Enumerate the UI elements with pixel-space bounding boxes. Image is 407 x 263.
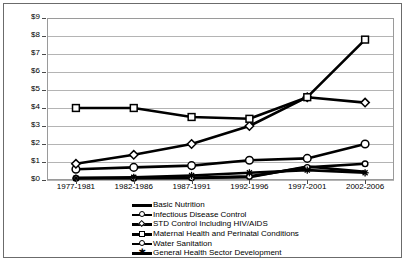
series-layer xyxy=(47,18,394,180)
legend-item: STD Control Including HIV/AIDS xyxy=(132,219,362,229)
series-marker xyxy=(130,105,137,112)
y-axis-tick-label: $7 xyxy=(6,49,40,57)
x-axis-tick-mark xyxy=(76,180,77,184)
series-marker xyxy=(188,114,195,121)
x-axis-tick-mark xyxy=(307,180,308,184)
series-marker xyxy=(187,140,195,148)
chart-legend: Basic NutritionInfectious Disease Contro… xyxy=(132,200,362,258)
series-marker xyxy=(361,140,369,148)
y-axis-tick-label: $6 xyxy=(6,67,40,75)
legend-swatch xyxy=(132,200,152,209)
legend-item: Maternal Health and Perinatal Conditions xyxy=(132,229,362,239)
series-marker xyxy=(245,122,253,130)
y-axis-tick-label: $1 xyxy=(6,157,40,165)
x-axis-tick-mark xyxy=(365,180,366,184)
legend-label: STD Control Including HIV/AIDS xyxy=(153,219,268,228)
series-marker xyxy=(362,36,369,43)
legend-label: Water Sanitation xyxy=(153,239,212,248)
legend-item: Infectious Disease Control xyxy=(132,210,362,220)
series-marker xyxy=(361,98,369,106)
legend-line xyxy=(132,204,152,207)
series-marker xyxy=(188,162,196,170)
series-marker xyxy=(361,169,368,176)
legend-marker xyxy=(139,240,145,246)
legend-marker xyxy=(139,211,145,217)
y-axis-tick-label: $2 xyxy=(6,139,40,147)
legend-swatch: ✱ xyxy=(132,248,152,257)
legend-item: Basic Nutrition xyxy=(132,200,362,210)
legend-marker xyxy=(139,231,145,237)
series-line xyxy=(76,40,365,119)
series-marker xyxy=(73,105,80,112)
y-axis-tick-mark xyxy=(42,72,46,73)
y-axis-tick-label: $8 xyxy=(6,31,40,39)
gridline xyxy=(47,180,394,181)
y-axis-tick-label: $3 xyxy=(6,121,40,129)
chart-screenshot: Basic NutritionInfectious Disease Contro… xyxy=(0,0,407,263)
legend-swatch xyxy=(132,219,152,228)
series-marker xyxy=(130,164,138,172)
y-axis-tick-mark xyxy=(42,54,46,55)
legend-item: ✱General Health Sector Development xyxy=(132,248,362,258)
y-axis-tick-mark xyxy=(42,18,46,19)
plot-area xyxy=(47,18,394,180)
y-axis-tick-mark xyxy=(42,144,46,145)
x-axis-tick-mark xyxy=(192,180,193,184)
series-marker xyxy=(188,172,195,179)
series-marker xyxy=(246,169,253,176)
legend-marker xyxy=(138,220,146,228)
legend-marker: ✱ xyxy=(139,249,146,255)
y-axis-tick-label: $5 xyxy=(6,85,40,93)
series-marker xyxy=(303,155,311,163)
y-axis-tick-mark xyxy=(42,126,46,127)
legend-label: Maternal Health and Perinatal Conditions xyxy=(153,229,299,238)
legend-swatch xyxy=(132,210,152,219)
legend-label: General Health Sector Development xyxy=(153,248,282,257)
legend-label: Infectious Disease Control xyxy=(153,210,246,219)
series-marker xyxy=(304,94,311,101)
y-axis-tick-label: $0 xyxy=(6,175,40,183)
x-axis-tick-mark xyxy=(249,180,250,184)
y-axis-tick-mark xyxy=(42,162,46,163)
legend-label: Basic Nutrition xyxy=(153,200,205,209)
chart-outer-border: Basic NutritionInfectious Disease Contro… xyxy=(3,3,402,258)
y-axis-tick-mark xyxy=(42,108,46,109)
series-marker xyxy=(246,156,254,164)
y-axis-tick-mark xyxy=(42,180,46,181)
y-axis-tick-mark xyxy=(42,90,46,91)
series-marker xyxy=(362,161,368,167)
y-axis-tick-label: $4 xyxy=(6,103,40,111)
x-axis-tick-mark xyxy=(134,180,135,184)
legend-item: Water Sanitation xyxy=(132,238,362,248)
legend-swatch xyxy=(132,229,152,238)
series-marker xyxy=(246,115,253,122)
y-axis-tick-mark xyxy=(42,36,46,37)
y-axis-tick-label: $9 xyxy=(6,13,40,21)
series-marker xyxy=(130,151,138,159)
